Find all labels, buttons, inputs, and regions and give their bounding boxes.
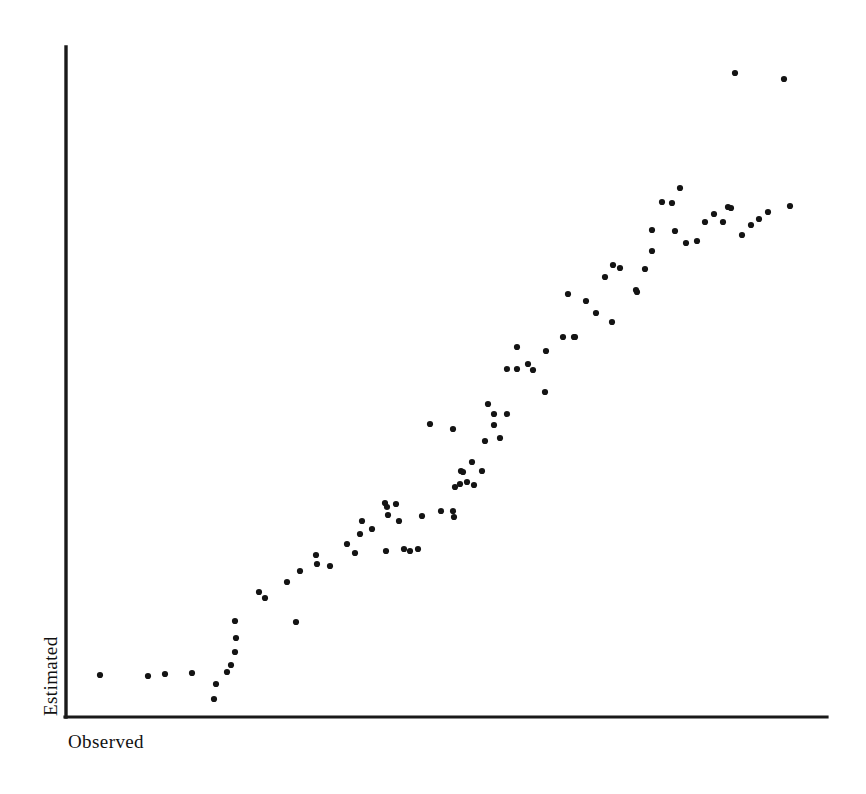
- data-point: [748, 222, 754, 228]
- data-points-group: [97, 70, 793, 702]
- data-point: [479, 468, 485, 474]
- data-point: [464, 479, 470, 485]
- data-point: [396, 518, 402, 524]
- data-point: [369, 526, 375, 532]
- data-point: [669, 200, 675, 206]
- data-point: [293, 619, 299, 625]
- data-point: [504, 411, 510, 417]
- data-point: [677, 185, 683, 191]
- data-point: [211, 696, 217, 702]
- data-point: [162, 671, 168, 677]
- data-point: [451, 514, 457, 520]
- data-point: [482, 438, 488, 444]
- data-point: [284, 579, 290, 585]
- data-point: [232, 649, 238, 655]
- data-point: [313, 552, 319, 558]
- data-point: [233, 635, 239, 641]
- data-point: [491, 411, 497, 417]
- data-point: [694, 238, 700, 244]
- data-point: [765, 209, 771, 215]
- data-point: [393, 501, 399, 507]
- data-point: [659, 199, 665, 205]
- data-point: [228, 662, 234, 668]
- data-point: [672, 228, 678, 234]
- data-point: [415, 546, 421, 552]
- data-point: [602, 274, 608, 280]
- data-point: [649, 248, 655, 254]
- data-point: [583, 298, 589, 304]
- data-point: [383, 548, 389, 554]
- data-point: [525, 361, 531, 367]
- data-point: [460, 469, 466, 475]
- data-point: [610, 262, 616, 268]
- data-point: [732, 70, 738, 76]
- data-point: [145, 673, 151, 679]
- data-point: [617, 265, 623, 271]
- data-point: [97, 672, 103, 678]
- data-point: [385, 512, 391, 518]
- data-point: [427, 421, 433, 427]
- data-point: [314, 561, 320, 567]
- data-point: [344, 541, 350, 547]
- data-point: [514, 366, 520, 372]
- data-point: [327, 563, 333, 569]
- data-point: [224, 669, 230, 675]
- plot-canvas: [0, 0, 866, 794]
- data-point: [702, 219, 708, 225]
- data-point: [491, 422, 497, 428]
- data-point: [450, 508, 456, 514]
- data-point: [565, 291, 571, 297]
- data-point: [297, 568, 303, 574]
- data-point: [781, 76, 787, 82]
- x-axis-label: Observed: [68, 731, 144, 753]
- data-point: [457, 481, 463, 487]
- data-point: [530, 367, 536, 373]
- data-point: [739, 232, 745, 238]
- data-point: [542, 389, 548, 395]
- data-point: [450, 426, 456, 432]
- data-point: [560, 334, 566, 340]
- data-point: [384, 504, 390, 510]
- data-point: [720, 219, 726, 225]
- data-point: [683, 240, 689, 246]
- data-point: [787, 203, 793, 209]
- data-point: [419, 513, 425, 519]
- data-point: [711, 211, 717, 217]
- data-point: [438, 508, 444, 514]
- data-point: [756, 216, 762, 222]
- data-point: [593, 310, 599, 316]
- data-point: [497, 435, 503, 441]
- data-point: [728, 205, 734, 211]
- scatter-plot-figure: Observed Estimated: [0, 0, 866, 794]
- data-point: [469, 459, 475, 465]
- data-point: [514, 344, 520, 350]
- data-point: [543, 348, 549, 354]
- data-point: [642, 266, 648, 272]
- data-point: [359, 518, 365, 524]
- data-point: [213, 681, 219, 687]
- data-point: [485, 401, 491, 407]
- y-axis-label: Estimated: [40, 636, 62, 716]
- axes-group: [65, 47, 827, 717]
- data-point: [407, 548, 413, 554]
- data-point: [634, 289, 640, 295]
- data-point: [357, 531, 363, 537]
- data-point: [189, 670, 195, 676]
- data-point: [256, 589, 262, 595]
- data-point: [649, 227, 655, 233]
- data-point: [352, 550, 358, 556]
- data-point: [609, 319, 615, 325]
- data-point: [232, 618, 238, 624]
- data-point: [262, 595, 268, 601]
- data-point: [401, 546, 407, 552]
- data-point: [572, 334, 578, 340]
- data-point: [504, 366, 510, 372]
- data-point: [471, 482, 477, 488]
